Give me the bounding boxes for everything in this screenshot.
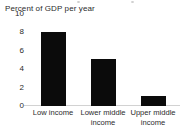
y-axis-tick-label: 2	[20, 84, 24, 92]
y-axis-tick-label: 4	[20, 65, 24, 73]
plot-area: 1086420	[28, 14, 178, 106]
y-axis-tick-label: 6	[20, 47, 24, 55]
bar	[141, 96, 166, 106]
cropped-caption-artifact	[0, 0, 182, 3]
y-axis-tick-label: 10	[15, 10, 24, 18]
y-axis-tick-label: 8	[20, 28, 24, 36]
x-axis-labels: Low incomeLower middleincomeUpper middle…	[28, 108, 182, 137]
bar	[41, 32, 66, 106]
bar-chart: Percent of GDP per year 1086420 Low inco…	[0, 0, 182, 137]
x-axis-category-line: income	[124, 118, 182, 128]
x-axis-category-line: Upper middle	[124, 108, 182, 118]
x-axis-category-label: Upper middleincome	[124, 108, 182, 127]
bar	[91, 59, 116, 106]
